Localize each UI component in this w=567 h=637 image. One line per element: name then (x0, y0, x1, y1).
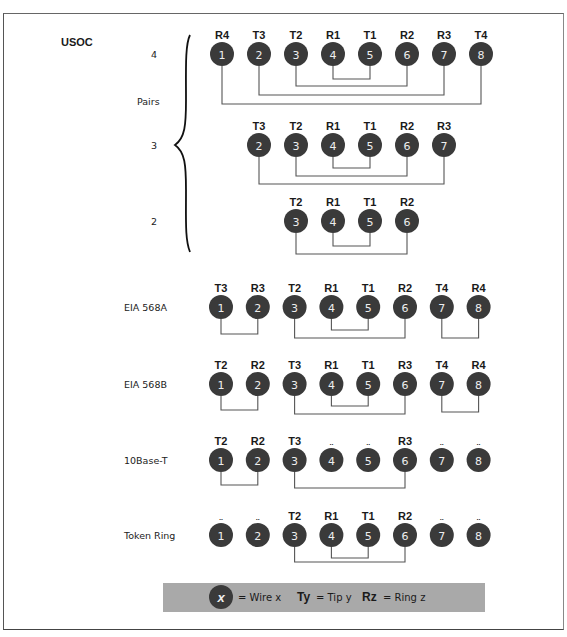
pin-signal-label: R3 (251, 282, 265, 294)
pin-signal-label: R1 (326, 120, 340, 132)
pin-7: ¨7 (430, 442, 454, 472)
legend-wire-glyph: x (216, 590, 225, 605)
pin-number: 7 (441, 140, 448, 153)
pin-number: 3 (291, 379, 298, 392)
pin-5: T15 (358, 29, 382, 66)
pin-signal-label: R1 (324, 510, 338, 522)
pin-signal-label: R2 (398, 282, 412, 294)
pin-signal-label: T2 (215, 359, 228, 371)
pin-number: 3 (291, 530, 298, 543)
pin-4: R14 (321, 29, 345, 66)
pin-number: 8 (478, 49, 485, 62)
pairs-brace (175, 35, 190, 252)
pin-signal-label: T1 (364, 29, 377, 41)
pin-signal-label: R2 (400, 29, 414, 41)
legend-ring-text: = Ring z (383, 592, 425, 603)
pin-number: 6 (402, 379, 409, 392)
pin-1: T31 (209, 282, 233, 319)
usoc-title: USOC (61, 36, 93, 48)
pin-6: R26 (395, 120, 419, 157)
pin-signal-label: T1 (362, 282, 375, 294)
pinout-rows: 4R41T32T23R14T15R26R37T483T32T23R14T15R2… (123, 29, 493, 562)
pinout-row-usoc-4: 4R41T32T23R14T15R26R37T48 (151, 29, 493, 104)
pin-5: T15 (356, 282, 380, 319)
row-label: Token Ring (123, 530, 175, 541)
pin-number: 5 (367, 49, 374, 62)
pin-4: R14 (319, 282, 343, 319)
pin-6: R26 (395, 29, 419, 66)
pin-number: 4 (330, 49, 337, 62)
row-label: EIA 568A (124, 302, 167, 313)
pin-signal-label: R4 (472, 282, 487, 294)
pin-2: R32 (246, 282, 270, 319)
pin-signal-label: T4 (475, 29, 489, 41)
pin-signal-label: R1 (324, 359, 338, 371)
pin-number: 3 (293, 49, 300, 62)
wire-pair-3-6 (296, 157, 407, 176)
pin-number: 5 (365, 302, 372, 315)
pin-number: 5 (365, 379, 372, 392)
pin-signal-label: T3 (253, 120, 266, 132)
pin-3: T23 (284, 196, 308, 233)
pin-signal-label: R1 (324, 282, 338, 294)
pin-5: T15 (358, 120, 382, 157)
pin-number: 3 (291, 455, 298, 468)
pin-number: 3 (293, 216, 300, 229)
pin-signal-label: T4 (435, 282, 449, 294)
wire-pair-2-7 (259, 66, 444, 95)
wire-pair-4-5 (331, 319, 368, 330)
pin-number: 8 (475, 530, 482, 543)
pin-number: 7 (441, 49, 448, 62)
wire-pair-4-5 (333, 233, 370, 246)
pin-number: 2 (256, 140, 263, 153)
pin-signal-label: R4 (215, 29, 230, 41)
wire-pair-1-8 (222, 66, 481, 104)
pin-7: T47 (430, 282, 454, 319)
pin-signal-label: T3 (253, 29, 266, 41)
pin-number: 4 (328, 455, 335, 468)
pin-2: R22 (246, 435, 270, 472)
pin-number: 1 (219, 49, 226, 62)
pin-signal-label: T2 (290, 29, 303, 41)
pin-number: 7 (438, 379, 445, 392)
pin-signal-label: T2 (288, 282, 301, 294)
pin-number: 8 (475, 379, 482, 392)
wire-pair-4-5 (333, 66, 370, 79)
wire-pair-4-5 (333, 157, 370, 168)
pin-4: R14 (319, 510, 343, 547)
pin-4: R14 (321, 196, 345, 233)
pin-signal-label: R3 (437, 120, 451, 132)
pin-number: 6 (402, 455, 409, 468)
pin-5: T15 (356, 359, 380, 396)
pin-number: 5 (367, 216, 374, 229)
legend-tip-key: Ty (297, 590, 310, 604)
pin-2: ¨2 (246, 517, 270, 547)
pin-number: 7 (438, 455, 445, 468)
pin-signal-label: T4 (435, 359, 449, 371)
wire-pair-4-5 (331, 396, 368, 406)
pin-signal-label: T2 (290, 120, 303, 132)
pin-number: 4 (330, 140, 337, 153)
row-label: 2 (151, 216, 157, 227)
pin-number: 2 (254, 530, 261, 543)
pin-number: 4 (330, 216, 337, 229)
pin-number: 6 (404, 140, 411, 153)
pin-1: R41 (210, 29, 234, 66)
pin-1: ¨1 (209, 517, 233, 547)
pin-signal-label: T2 (215, 435, 228, 447)
pin-signal-label: T3 (215, 282, 228, 294)
pin-6: R26 (393, 282, 417, 319)
row-label: 4 (151, 49, 157, 60)
pin-signal-label: R3 (398, 359, 412, 371)
pin-6: R36 (393, 359, 417, 396)
pin-3: T23 (283, 282, 307, 319)
row-label: EIA 568B (124, 379, 167, 390)
pin-6: R26 (395, 196, 419, 233)
pin-8: ¨8 (467, 442, 491, 472)
pin-2: T32 (247, 120, 271, 157)
pin-number: 3 (293, 140, 300, 153)
pin-signal-label: R2 (251, 359, 265, 371)
pin-signal-label: R2 (400, 196, 414, 208)
pin-signal-label: R2 (251, 435, 265, 447)
row-label: 3 (151, 140, 157, 151)
